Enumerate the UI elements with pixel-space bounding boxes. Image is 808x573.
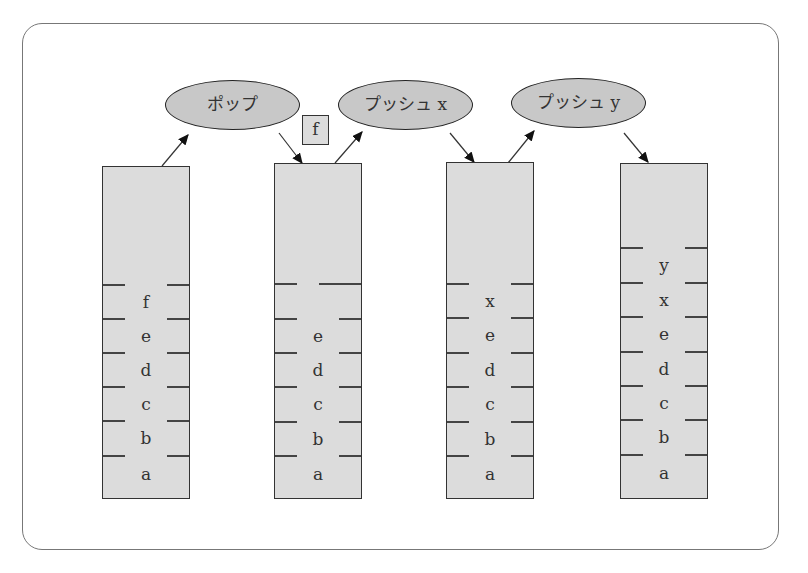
stack-item: x xyxy=(621,283,707,317)
stack-item: a xyxy=(447,457,533,491)
stack-item: d xyxy=(621,352,707,386)
stack-2: e d c b a xyxy=(274,163,362,499)
stack-4: y x e d c b a xyxy=(620,163,708,499)
stack-item: a xyxy=(103,457,189,491)
stack-item: f xyxy=(103,285,189,319)
stack-item: c xyxy=(447,387,533,421)
stack-item: e xyxy=(275,319,361,353)
push-y-operation: プッシュ y xyxy=(511,78,646,128)
stack-item: d xyxy=(275,353,361,387)
stack-item: x xyxy=(447,284,533,318)
stack-item: b xyxy=(621,420,707,454)
stack-3: x e d c b a xyxy=(446,162,534,499)
stack-item: a xyxy=(621,456,707,490)
stack-item: e xyxy=(447,318,533,352)
stack-item: a xyxy=(275,457,361,491)
stack-item: c xyxy=(621,386,707,420)
stack-1: f e d c b a xyxy=(102,166,190,499)
stack-item: y xyxy=(621,248,707,282)
stack-item: b xyxy=(103,421,189,455)
stack-item: c xyxy=(103,387,189,421)
stack-item: b xyxy=(275,422,361,456)
push-x-label: プッシュ x xyxy=(364,94,447,114)
push-y-label: プッシュ y xyxy=(537,92,620,112)
pop-label: ポップ xyxy=(207,94,258,114)
stack-item: b xyxy=(447,422,533,456)
pop-operation: ポップ xyxy=(165,80,300,130)
stack-item: e xyxy=(103,319,189,353)
stack-item: d xyxy=(447,353,533,387)
push-x-operation: プッシュ x xyxy=(338,80,473,130)
stack-item: d xyxy=(103,353,189,387)
stack-item: e xyxy=(621,317,707,351)
stack-item: c xyxy=(275,387,361,421)
popped-item-box: f xyxy=(302,115,329,145)
